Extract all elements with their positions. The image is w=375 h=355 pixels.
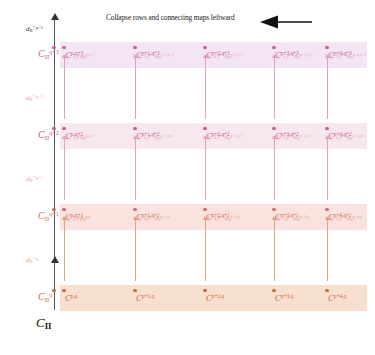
node-label: Cp+3,q+3 xyxy=(275,51,299,60)
node-label: Cp+3,q+2 xyxy=(275,132,299,141)
differential-arrow-line xyxy=(274,139,275,200)
differential-arrow-line xyxy=(327,139,328,200)
differential-arrow-line xyxy=(327,220,328,281)
node-label: Cp+4,q+3 xyxy=(328,51,352,60)
node-dot[interactable] xyxy=(325,289,328,292)
node-label: Cp+4,q+2 xyxy=(328,132,352,141)
axis-differential-label: dII*,q+1 xyxy=(26,176,43,184)
node-label: Cp,q+1 xyxy=(65,213,83,222)
diagram-canvas: Collapse rows and connecting maps leftwa… xyxy=(0,0,375,355)
node-label: Cp+2,q+1 xyxy=(206,213,230,222)
node-dot[interactable] xyxy=(62,46,65,49)
axis-node-dot[interactable] xyxy=(52,46,55,49)
axis-differential-label: dII*,q+2 xyxy=(26,95,43,103)
differential-arrow-line xyxy=(64,220,65,281)
node-dot[interactable] xyxy=(62,127,65,130)
node-dot[interactable] xyxy=(325,46,328,49)
differential-arrow-line xyxy=(205,139,206,200)
node-label: Cp,q+2 xyxy=(65,132,83,141)
axis-collapsed-object-3: CIIq+3 xyxy=(38,49,59,61)
node-label: Cp+1,q xyxy=(136,294,154,303)
node-label: Cp+2,q+2 xyxy=(206,132,230,141)
axis-node-dot[interactable] xyxy=(52,289,55,292)
axis-collapsed-object-2: CIIq+2 xyxy=(38,130,59,142)
node-dot[interactable] xyxy=(272,208,275,211)
node-dot[interactable] xyxy=(133,46,136,49)
bottom-collapsed-object: CII xyxy=(36,316,52,331)
node-label: Cp+3,q+1 xyxy=(275,213,299,222)
diagram-title: Collapse rows and connecting maps leftwa… xyxy=(106,14,235,21)
node-label: Cp,q xyxy=(65,294,77,303)
differential-arrow-line xyxy=(205,58,206,119)
node-dot[interactable] xyxy=(133,289,136,292)
node-dot[interactable] xyxy=(325,208,328,211)
node-label: Cp+2,q xyxy=(206,294,224,303)
differential-arrow-line xyxy=(274,220,275,281)
differential-arrow-line xyxy=(64,58,65,119)
node-dot[interactable] xyxy=(203,46,206,49)
axis-differential-label: dII*,q+3 xyxy=(26,26,43,34)
node-label: Cp+2,q+3 xyxy=(206,51,230,60)
node-dot[interactable] xyxy=(133,127,136,130)
node-dot[interactable] xyxy=(203,289,206,292)
differential-arrow-line xyxy=(135,58,136,119)
node-dot[interactable] xyxy=(203,127,206,130)
vertical-axis-arrowhead-icon xyxy=(51,13,59,20)
node-dot[interactable] xyxy=(62,289,65,292)
vertical-axis-arrowhead-lower-icon xyxy=(51,256,59,263)
node-label: Cp+4,q+1 xyxy=(328,213,352,222)
differential-arrow-line xyxy=(205,220,206,281)
node-dot[interactable] xyxy=(203,208,206,211)
axis-node-dot[interactable] xyxy=(52,208,55,211)
node-dot[interactable] xyxy=(272,289,275,292)
axis-differential-label: dII*,q xyxy=(26,257,38,265)
node-dot[interactable] xyxy=(62,208,65,211)
differential-arrow-line xyxy=(64,139,65,200)
axis-collapsed-object-1: CIIq+1 xyxy=(38,211,59,223)
axis-node-dot[interactable] xyxy=(52,127,55,130)
node-dot[interactable] xyxy=(325,127,328,130)
axis-collapsed-object-0: CIIq xyxy=(38,292,52,304)
node-label: Cp+1,q+2 xyxy=(136,132,160,141)
collapse-left-arrow-icon xyxy=(258,15,314,29)
node-dot[interactable] xyxy=(133,208,136,211)
node-label: Cp+4,q xyxy=(328,294,346,303)
vertical-axis-line-lower xyxy=(54,262,55,310)
node-label: Cp+1,q+3 xyxy=(136,51,160,60)
node-label: Cp+1,q+1 xyxy=(136,213,160,222)
differential-arrow-line xyxy=(135,139,136,200)
node-dot[interactable] xyxy=(272,46,275,49)
node-dot[interactable] xyxy=(272,127,275,130)
node-label: Cp+3,q xyxy=(275,294,293,303)
differential-arrow-line xyxy=(274,58,275,119)
differential-arrow-line xyxy=(135,220,136,281)
node-label: Cp,q+3 xyxy=(65,51,83,60)
differential-arrow-line xyxy=(327,58,328,119)
